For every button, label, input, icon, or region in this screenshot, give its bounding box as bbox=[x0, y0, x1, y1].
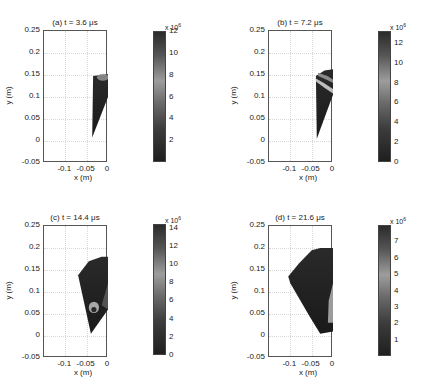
colorbar-tick-label: 8 bbox=[394, 78, 398, 87]
y-tick-label: 0.1 bbox=[10, 91, 40, 100]
y-tick-label: 0.05 bbox=[10, 113, 40, 122]
colorbar-tick-label: 4 bbox=[394, 286, 398, 295]
colorbar-tick-label: 12 bbox=[169, 241, 178, 250]
colorbar-tick-label: 12 bbox=[394, 38, 403, 47]
x-axis-label: x (m) bbox=[288, 173, 328, 182]
panel-c-axes bbox=[43, 225, 107, 357]
colorbar-tick-label: 8 bbox=[169, 277, 173, 286]
x-tick-label: 0 bbox=[92, 164, 122, 173]
colorbar-tick-label: 10 bbox=[169, 259, 178, 268]
y-tick-label: 0 bbox=[235, 135, 265, 144]
colorbar-tick-label: 3 bbox=[394, 302, 398, 311]
y-tick-label: 0.15 bbox=[235, 264, 265, 273]
y-tick-label: 0.1 bbox=[235, 91, 265, 100]
y-tick-label: 0.25 bbox=[235, 25, 265, 34]
y-tick-label: 0 bbox=[10, 330, 40, 339]
y-tick-label: 0.25 bbox=[235, 220, 265, 229]
colorbar-tick-label: 14 bbox=[169, 223, 178, 232]
y-tick-label: 0.2 bbox=[10, 242, 40, 251]
panel-c-colorbar bbox=[153, 224, 166, 355]
colorbar-tick-label: 1 bbox=[394, 335, 398, 344]
y-tick-label: 0.1 bbox=[235, 286, 265, 295]
panel-d-colorbar bbox=[378, 225, 391, 356]
colorbar-tick-label: 10 bbox=[169, 48, 178, 57]
colorbar-tick-label: 7 bbox=[394, 236, 398, 245]
x-axis-label: x (m) bbox=[63, 173, 103, 182]
y-tick-label: 0.25 bbox=[10, 25, 40, 34]
colorbar-tick-label: 6 bbox=[394, 253, 398, 262]
y-tick-label: 0.15 bbox=[10, 69, 40, 78]
y-tick-label: -0.05 bbox=[235, 352, 265, 361]
y-tick-label: 0.1 bbox=[10, 286, 40, 295]
colorbar-tick-label: 0 bbox=[169, 350, 173, 359]
x-tick-label: 0 bbox=[92, 359, 122, 368]
panel-a-colorbar bbox=[153, 31, 166, 162]
colorbar-tick-label: 6 bbox=[394, 97, 398, 106]
y-axis-label: y (m) bbox=[229, 276, 238, 306]
panel-c-field-region bbox=[44, 226, 108, 358]
y-tick-label: 0 bbox=[10, 135, 40, 144]
colorbar-tick-label: 4 bbox=[169, 113, 173, 122]
colorbar-tick-label: 5 bbox=[394, 269, 398, 278]
colorbar-tick-label: 2 bbox=[394, 318, 398, 327]
colorbar-tick-label: 0 bbox=[394, 157, 398, 166]
colorbar-exponent: x 106 bbox=[390, 216, 406, 225]
x-tick-label: 0 bbox=[317, 164, 347, 173]
colorbar-tick-label: 8 bbox=[169, 70, 173, 79]
panel-d-axes bbox=[268, 225, 332, 357]
panel-b-field-region bbox=[269, 31, 333, 163]
colorbar-tick-label: 4 bbox=[394, 117, 398, 126]
colorbar-tick-label: 2 bbox=[394, 137, 398, 146]
y-tick-label: 0.15 bbox=[235, 69, 265, 78]
panel-a-axes bbox=[43, 30, 107, 162]
y-tick-label: 0.05 bbox=[235, 113, 265, 122]
x-axis-label: x (m) bbox=[63, 368, 103, 377]
colorbar-tick-label: 6 bbox=[169, 295, 173, 304]
panel-b-colorbar bbox=[378, 31, 391, 162]
colorbar-tick-label: 6 bbox=[169, 92, 173, 101]
panel-d-field-region bbox=[269, 226, 333, 358]
colorbar-tick-label: 12 bbox=[169, 26, 178, 35]
y-axis-label: y (m) bbox=[4, 276, 13, 306]
colorbar-tick-label: 2 bbox=[169, 135, 173, 144]
y-tick-label: 0.2 bbox=[235, 47, 265, 56]
y-tick-label: 0.2 bbox=[235, 242, 265, 251]
x-tick-label: 0 bbox=[317, 359, 347, 368]
x-axis-label: x (m) bbox=[288, 368, 328, 377]
y-tick-label: 0.05 bbox=[235, 308, 265, 317]
panel-b-axes bbox=[268, 30, 332, 162]
y-tick-label: 0.25 bbox=[10, 220, 40, 229]
y-tick-label: -0.05 bbox=[10, 157, 40, 166]
y-tick-label: -0.05 bbox=[10, 352, 40, 361]
colorbar-exponent: x 106 bbox=[390, 22, 406, 31]
y-tick-label: 0 bbox=[235, 330, 265, 339]
y-tick-label: 0.05 bbox=[10, 308, 40, 317]
colorbar-tick-label: 4 bbox=[169, 314, 173, 323]
colorbar-tick-label: 10 bbox=[394, 58, 403, 67]
y-tick-label: 0.15 bbox=[10, 264, 40, 273]
y-tick-label: 0.2 bbox=[10, 47, 40, 56]
y-tick-label: -0.05 bbox=[235, 157, 265, 166]
panel-a-field-region bbox=[44, 31, 108, 163]
y-axis-label: y (m) bbox=[4, 81, 13, 111]
colorbar-tick-label: 2 bbox=[169, 332, 173, 341]
y-axis-label: y (m) bbox=[229, 81, 238, 111]
